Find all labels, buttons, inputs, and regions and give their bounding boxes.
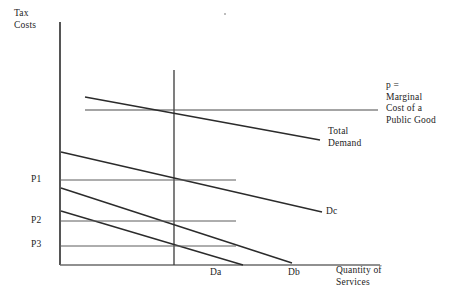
marginal-cost-label: p = Marginal Cost of a Public Good — [386, 80, 436, 126]
db-curve — [61, 188, 292, 263]
quantity-label-da: Da — [210, 267, 221, 279]
price-label-p3: P3 — [31, 239, 41, 251]
x-axis-label: Quantity of Services — [336, 265, 382, 288]
price-label-p2: P2 — [31, 215, 41, 227]
y-axis-label: Tax Costs — [14, 8, 36, 31]
diagram-canvas: Tax Costs P1 P2 P3 Da Db Quantity of Ser… — [0, 0, 458, 301]
total-demand-label: Total Demand — [328, 126, 361, 149]
economics-diagram-svg — [0, 0, 458, 301]
dc-curve — [61, 152, 322, 212]
total-demand-curve — [85, 97, 320, 140]
scan-speck — [224, 13, 226, 15]
price-label-p1: P1 — [31, 174, 41, 186]
quantity-label-db: Db — [288, 267, 300, 279]
dc-curve-label: Dc — [326, 206, 337, 218]
